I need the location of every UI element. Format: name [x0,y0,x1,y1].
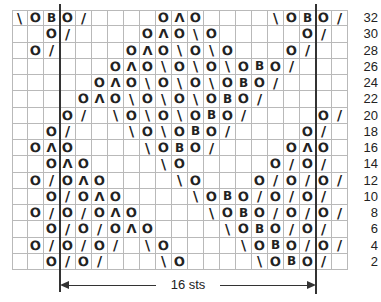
chart-cell [92,108,108,124]
k2tog-icon: / [289,189,294,203]
yarn-over-icon: O [61,205,74,220]
twisted-knit-icon: B [207,109,216,121]
yarn-over-icon: O [301,189,314,204]
yarn-over-icon: O [29,10,42,25]
yarn-over-icon: O [61,140,74,155]
yarn-over-icon: O [253,205,266,220]
chart-cell [204,156,220,172]
row-number-label: 28 [352,43,378,59]
chart-cell: B [284,254,300,270]
yarn-over-icon: O [173,59,186,74]
k2tog-icon: / [337,238,342,252]
chart-cell: / [220,124,236,140]
yarn-over-icon: O [141,59,154,74]
chart-cell [76,43,92,59]
chart-cell [332,140,348,156]
chart-cell: / [268,75,284,91]
chart-cell [92,26,108,42]
k2tog-icon: / [49,238,54,252]
k2tog-icon: / [65,189,70,203]
chart-cell: \ [140,238,156,254]
chart-cell [236,26,252,42]
chart-cell [92,124,108,140]
chart-cell: \ [124,91,140,107]
chart-cell [332,91,348,107]
row-number-label: 14 [352,156,378,172]
chart-cell: \ [156,254,172,270]
k2tog-icon: / [289,157,294,171]
chart-cell: O [124,205,140,221]
chart-cell: O [316,238,332,254]
chart-cell [220,238,236,254]
chart-cell: O [156,140,172,156]
chart-cell: O [300,189,316,205]
k2tog-icon: / [65,27,70,41]
chart-cell [156,221,172,237]
yarn-over-icon: O [29,173,42,188]
chart-cell [124,10,140,26]
double-decrease-icon: Λ [174,11,184,24]
chart-cell: O [108,221,124,237]
chart-cell: / [60,124,76,140]
chart-cell: O [140,91,156,107]
k2tog-icon: / [49,43,54,57]
chart-cell [44,108,60,124]
chart-cell: / [76,205,92,221]
yarn-over-icon: O [189,75,202,90]
chart-cell: Λ [124,221,140,237]
chart-cell: / [60,189,76,205]
chart-cell: O [92,205,108,221]
yarn-over-icon: O [125,108,138,123]
chart-cell: \ [204,43,220,59]
chart-cell [172,238,188,254]
k2tog-icon: / [97,222,102,236]
chart-cell: O [28,140,44,156]
chart-cell [44,91,60,107]
chart-cell [204,221,220,237]
yarn-over-icon: O [221,75,234,90]
chart-cell: O [284,10,300,26]
chart-cell: O [300,221,316,237]
yarn-over-icon: O [285,43,298,58]
yarn-over-icon: O [109,92,122,107]
double-decrease-icon: Λ [94,92,104,105]
chart-cell: O [124,43,140,59]
chart-cell: \ [124,124,140,140]
chart-cell: O [44,254,60,270]
chart-cell: O [236,59,252,75]
chart-cell [108,156,124,172]
chart-cell [268,124,284,140]
ssk-icon: \ [193,59,198,73]
chart-cell: / [316,26,332,42]
chart-cell [204,238,220,254]
chart-cell: O [124,75,140,91]
chart-cell: / [252,91,268,107]
chart-cell: / [60,221,76,237]
chart-cell [12,156,28,172]
chart-cell: \ [12,10,28,26]
chart-cell: O [156,10,172,26]
repeat-boundary-left [59,4,61,292]
chart-cell: Λ [92,91,108,107]
chart-cell: / [332,238,348,254]
chart-cell [108,173,124,189]
k2tog-icon: / [81,238,86,252]
chart-cell: O [220,205,236,221]
chart-cell [332,43,348,59]
chart-cell: / [284,156,300,172]
chart-cell: O [76,156,92,172]
double-decrease-icon: Λ [158,27,168,40]
yarn-over-icon: O [141,27,154,42]
chart-cell [268,26,284,42]
chart-cell: O [316,108,332,124]
twisted-knit-icon: B [223,190,232,202]
chart-cell [236,124,252,140]
chart-cell: O [156,75,172,91]
yarn-over-icon: O [205,124,218,139]
chart-cell [92,10,108,26]
chart-cell [12,221,28,237]
chart-cell [172,205,188,221]
ssk-icon: \ [177,43,182,57]
yarn-over-icon: O [237,189,250,204]
stitch-repeat-indicator: 16 sts [60,277,316,293]
